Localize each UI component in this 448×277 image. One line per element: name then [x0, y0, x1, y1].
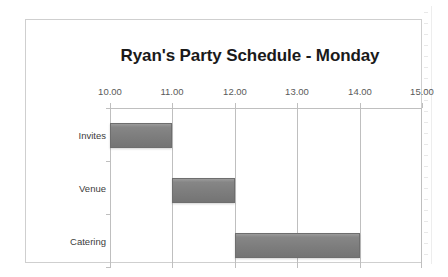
screenshot-root: Ryan's Party Schedule - Monday 10.00 11.… [0, 0, 448, 277]
xaxis-tick-label-10: 10.00 [80, 86, 140, 97]
yaxis-label-venue: Venue [36, 183, 106, 194]
gantt-bar-invites[interactable] [110, 123, 172, 148]
xaxis-tick-label-15: 15.00 [392, 86, 448, 97]
gantt-bar-catering[interactable] [235, 233, 360, 258]
yaxis-label-catering: Catering [36, 236, 106, 247]
plot-area [110, 108, 422, 268]
xaxis-tick-label-13: 13.00 [267, 86, 327, 97]
chart-title: Ryan's Party Schedule - Monday [26, 46, 448, 66]
xaxis-tick-label-14: 14.00 [330, 86, 390, 97]
xaxis-tick-mark-15 [422, 103, 423, 108]
gantt-bar-venue[interactable] [172, 178, 235, 203]
gridline-14 [360, 108, 361, 268]
yaxis-category-labels: Invites Venue Catering [30, 108, 106, 268]
yaxis-label-invites: Invites [36, 130, 106, 141]
window-edge-divider [431, 6, 432, 264]
xaxis-tick-label-12: 12.00 [205, 86, 265, 97]
gridline-15 [421, 108, 422, 268]
chart-frame[interactable]: Ryan's Party Schedule - Monday 10.00 11.… [25, 19, 422, 263]
xaxis-tick-label-11: 11.00 [142, 86, 202, 97]
